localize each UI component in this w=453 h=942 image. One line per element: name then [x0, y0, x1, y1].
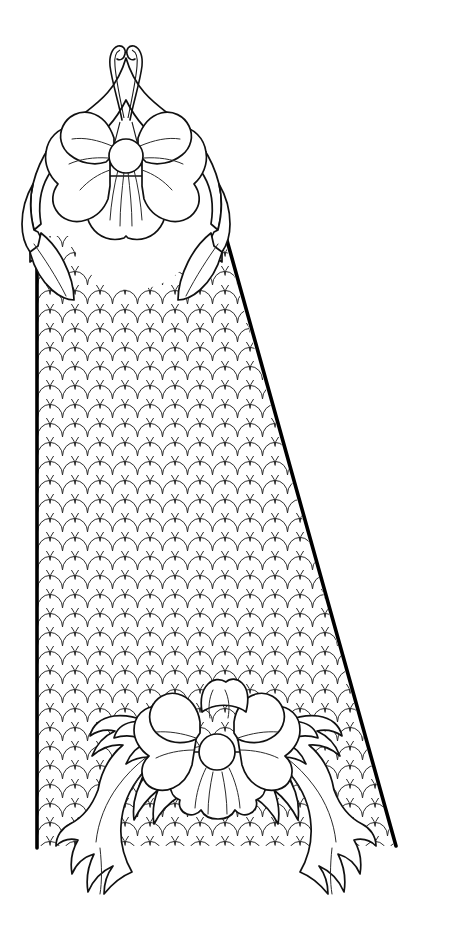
- apex-blossom-core: [109, 139, 143, 173]
- ornament-illustration: Ornamental Scale-Field Panel with Floral…: [0, 0, 453, 942]
- base-blossom-core: [199, 734, 235, 770]
- artboard: Ornamental Scale-Field Panel with Floral…: [0, 0, 453, 942]
